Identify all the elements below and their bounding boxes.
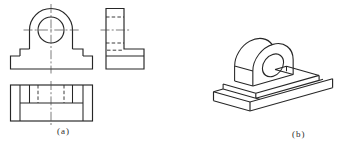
iso-tier-top-right-edges <box>275 66 319 75</box>
label-a: (a) <box>57 126 70 136</box>
side-view <box>101 9 145 70</box>
front-view <box>11 4 93 74</box>
iso-slab-top-edges <box>214 79 333 102</box>
label-b: (b) <box>292 129 306 139</box>
figure-canvas: (a) (b) <box>0 0 344 146</box>
iso-lug-left-face-edges <box>235 66 253 81</box>
front-base-slab <box>11 56 93 69</box>
engineering-drawing: (a) (b) <box>0 0 344 146</box>
top-view <box>11 81 93 126</box>
orthographic-views <box>11 4 145 126</box>
front-tier-step <box>20 49 83 56</box>
iso-lug-back-arc <box>235 34 273 66</box>
iso-slab-back-left-edge <box>214 89 224 92</box>
iso-hole-ellipse <box>262 51 283 79</box>
isometric-view <box>214 34 333 111</box>
iso-notch-right <box>319 79 323 80</box>
iso-lug-front-face <box>253 39 293 86</box>
side-outline <box>106 9 144 70</box>
iso-lug-base-edges <box>235 75 294 86</box>
